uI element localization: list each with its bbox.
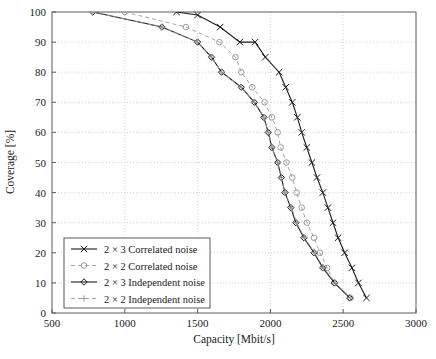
y-tick-label: 80 — [35, 66, 47, 78]
legend-label: 2 × 3 Independent noise — [104, 277, 205, 288]
y-tick-label: 10 — [35, 277, 47, 289]
y-tick-label: 20 — [35, 247, 47, 259]
x-tick-label: 1000 — [114, 317, 137, 329]
y-axis-title: Coverage [%] — [4, 130, 17, 194]
y-tick-label: 90 — [35, 36, 47, 48]
x-tick-label: 3000 — [405, 317, 428, 329]
chart-canvas: 50010001500200025003000 0102030405060708… — [0, 0, 436, 359]
chart-legend[interactable]: 2 × 3 Correlated noise2 × 2 Correlated n… — [64, 238, 210, 308]
chart-figure: 50010001500200025003000 0102030405060708… — [0, 0, 436, 359]
x-tick-label: 1500 — [187, 317, 210, 329]
y-tick-label: 70 — [35, 96, 47, 108]
y-tick-label: 30 — [35, 217, 47, 229]
x-axis-title: Capacity [Mbit/s] — [193, 333, 274, 346]
y-tick-label: 60 — [35, 126, 47, 138]
legend-label: 2 × 2 Independent noise — [104, 294, 205, 305]
y-tick-label: 100 — [30, 6, 47, 18]
y-tick-label: 50 — [35, 157, 47, 169]
x-tick-label: 2000 — [259, 317, 282, 329]
legend-label: 2 × 2 Correlated noise — [104, 261, 198, 272]
x-tick-label: 2500 — [332, 317, 355, 329]
x-tick-label: 500 — [44, 317, 61, 329]
y-tick-label: 40 — [35, 187, 47, 199]
legend-label: 2 × 3 Correlated noise — [104, 244, 198, 255]
y-tick-label: 0 — [41, 307, 47, 319]
